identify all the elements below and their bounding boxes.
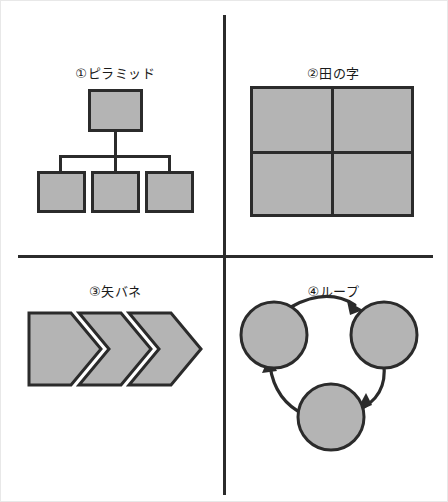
pyramid-node-root bbox=[88, 89, 143, 132]
chevron-figure bbox=[13, 265, 218, 493]
quadrant-pyramid: ①ピラミッド bbox=[13, 19, 218, 247]
loop-figure bbox=[231, 265, 436, 493]
loop-node-2 bbox=[351, 302, 417, 368]
horizontal-divider bbox=[18, 255, 433, 258]
pyramid-node-child-1 bbox=[37, 171, 86, 213]
pyramid-node-child-3 bbox=[145, 171, 194, 213]
quadrant-grid: ②田の字 bbox=[231, 19, 436, 247]
pyramid-connector-stem bbox=[114, 132, 117, 156]
loop-svg bbox=[231, 265, 436, 493]
quadrant-chevron: ③矢バネ bbox=[13, 265, 218, 493]
pyramid-figure bbox=[13, 19, 218, 247]
diagram-page: ①ピラミッド ②田の字 ③矢バネ bbox=[0, 0, 448, 502]
loop-arrow-1-path bbox=[291, 296, 355, 307]
quadrant-loop: ④ループ bbox=[231, 265, 436, 493]
grid-horizontal-line bbox=[253, 151, 411, 154]
grid-outer-frame bbox=[250, 86, 414, 217]
pyramid-node-child-2 bbox=[91, 171, 140, 213]
pyramid-connector-drop-1 bbox=[59, 155, 62, 172]
grid-figure bbox=[231, 19, 436, 247]
pyramid-connector-drop-2 bbox=[114, 155, 117, 172]
loop-node-1 bbox=[241, 302, 307, 368]
chevron-svg bbox=[13, 265, 218, 493]
loop-node-3 bbox=[298, 384, 364, 450]
pyramid-connector-drop-3 bbox=[168, 155, 171, 172]
